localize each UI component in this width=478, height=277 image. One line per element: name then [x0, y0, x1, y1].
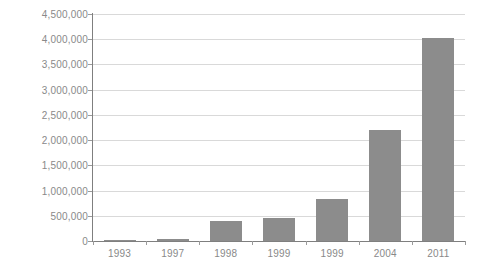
- y-tick-mark: [88, 241, 92, 242]
- x-tick-label: 1999: [321, 248, 344, 259]
- y-tick-label: 1,500,000: [4, 160, 88, 171]
- x-axis-tick-labels: 1993199719981999199920042011: [93, 248, 465, 268]
- bar[interactable]: [316, 199, 348, 241]
- y-tick-label: 4,000,000: [4, 34, 88, 45]
- bar-slot: [93, 14, 146, 241]
- bar[interactable]: [263, 218, 295, 241]
- x-tick-mark: [146, 241, 147, 245]
- x-tick-mark: [199, 241, 200, 245]
- x-axis-tick-marks: [93, 241, 465, 246]
- y-axis-tick-labels: 0500,0001,000,0001,500,0002,000,0002,500…: [0, 0, 88, 277]
- y-tick-label: 3,000,000: [4, 84, 88, 95]
- x-tick-mark: [465, 241, 466, 245]
- y-tick-mark: [88, 140, 92, 141]
- y-tick-mark: [88, 216, 92, 217]
- bars-layer: [93, 14, 465, 241]
- x-tick-mark: [306, 241, 307, 245]
- y-tick-mark: [88, 14, 92, 15]
- x-tick-mark: [412, 241, 413, 245]
- bar[interactable]: [422, 38, 454, 241]
- y-tick-mark: [88, 39, 92, 40]
- bar-slot: [199, 14, 252, 241]
- x-tick-label: 1999: [267, 248, 290, 259]
- bar-slot: [306, 14, 359, 241]
- bar-chart: 0500,0001,000,0001,500,0002,000,0002,500…: [0, 0, 478, 277]
- y-tick-mark: [88, 191, 92, 192]
- x-tick-label: 1998: [214, 248, 237, 259]
- x-tick-mark: [93, 241, 94, 245]
- bar-slot: [412, 14, 465, 241]
- y-tick-mark: [88, 165, 92, 166]
- bar[interactable]: [210, 221, 242, 241]
- y-tick-label: 500,000: [4, 210, 88, 221]
- y-tick-mark: [88, 115, 92, 116]
- x-tick-label: 1993: [108, 248, 131, 259]
- y-tick-label: 4,500,000: [4, 9, 88, 20]
- x-tick-label: 2011: [427, 248, 449, 259]
- y-tick-mark: [88, 64, 92, 65]
- bar-slot: [359, 14, 412, 241]
- x-tick-mark: [252, 241, 253, 245]
- y-tick-label: 2,000,000: [4, 135, 88, 146]
- y-tick-label: 0: [4, 236, 88, 247]
- y-tick-label: 2,500,000: [4, 109, 88, 120]
- x-tick-label: 2004: [374, 248, 397, 259]
- bar[interactable]: [369, 130, 401, 241]
- x-tick-mark: [359, 241, 360, 245]
- y-tick-mark: [88, 90, 92, 91]
- y-tick-label: 3,500,000: [4, 59, 88, 70]
- bar-slot: [146, 14, 199, 241]
- bar-slot: [252, 14, 305, 241]
- x-tick-label: 1997: [161, 248, 184, 259]
- y-tick-label: 1,000,000: [4, 185, 88, 196]
